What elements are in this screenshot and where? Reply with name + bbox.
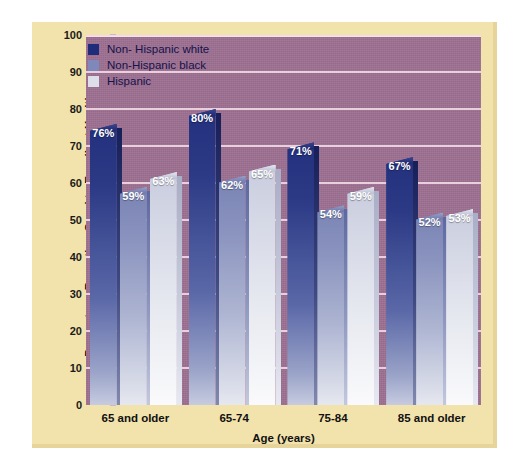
- bar[interactable]: [416, 213, 443, 405]
- bar-value-label: 65%: [239, 168, 285, 180]
- legend-label-non-hispanic-black: Non-Hispanic black: [107, 58, 206, 73]
- bar-front-face: [249, 165, 276, 406]
- bar[interactable]: [317, 205, 344, 405]
- bar-front-face: [90, 124, 117, 405]
- legend-item-hispanic[interactable]: Hispanic: [88, 74, 318, 89]
- bar-side-face: [374, 191, 379, 405]
- legend-swatch-icon-non-hispanic-black: [88, 60, 99, 71]
- bar-value-label: 63%: [140, 175, 186, 187]
- bar-front-face: [317, 205, 344, 405]
- bar-value-label: 59%: [338, 190, 384, 202]
- bar-front-face: [189, 109, 216, 405]
- bar[interactable]: [347, 187, 374, 405]
- bar-front-face: [219, 176, 246, 405]
- chart-figure: 0102030405060708090100 Percentage Report…: [0, 0, 518, 470]
- bar-front-face: [446, 209, 473, 405]
- legend-item-non-hispanic-white[interactable]: Non- Hispanic white: [88, 42, 318, 57]
- legend-swatch-icon-non-hispanic-white: [88, 44, 99, 55]
- y-axis-title-holder: Percentage Reporting Good to Excellent H…: [45, 0, 61, 440]
- bar-front-face: [287, 142, 314, 405]
- bar-side-face: [177, 176, 182, 405]
- bar[interactable]: [249, 165, 276, 406]
- bar[interactable]: [120, 187, 147, 405]
- gridline: [86, 35, 481, 36]
- bar-front-face: [386, 157, 413, 405]
- legend-swatch-icon-hispanic: [88, 76, 99, 87]
- gridline: [86, 108, 481, 110]
- bar[interactable]: [90, 124, 117, 405]
- bar-side-face: [276, 169, 281, 406]
- legend-label-hispanic: Hispanic: [107, 74, 151, 89]
- bar-value-label: 76%: [86, 127, 126, 139]
- x-axis-title: Age (years): [86, 432, 481, 444]
- panel-bottom-edge: [32, 444, 497, 448]
- bar-side-face: [473, 213, 478, 405]
- bar-front-face: [416, 213, 443, 405]
- legend: Non- Hispanic white Non-Hispanic black H…: [88, 42, 318, 90]
- bar[interactable]: [446, 209, 473, 405]
- bar[interactable]: [287, 142, 314, 405]
- bar[interactable]: [386, 157, 413, 405]
- bar-front-face: [150, 172, 177, 405]
- bar-value-label: 67%: [377, 160, 423, 172]
- panel-right-edge: [493, 22, 497, 448]
- bar[interactable]: [150, 172, 177, 405]
- bar-front-face: [120, 187, 147, 405]
- bar[interactable]: [219, 176, 246, 405]
- plot-area: 76%59%63%80%62%65%71%54%59%67%52%53% Non…: [86, 35, 481, 405]
- bar[interactable]: [189, 109, 216, 405]
- bar-value-label: 71%: [278, 145, 324, 157]
- bar-value-label: 80%: [179, 112, 225, 124]
- legend-label-non-hispanic-white: Non- Hispanic white: [107, 42, 209, 57]
- bar-front-face: [347, 187, 374, 405]
- legend-item-non-hispanic-black[interactable]: Non-Hispanic black: [88, 58, 318, 73]
- x-axis-tick-label: 85 and older: [372, 412, 491, 424]
- bar-value-label: 53%: [437, 212, 481, 224]
